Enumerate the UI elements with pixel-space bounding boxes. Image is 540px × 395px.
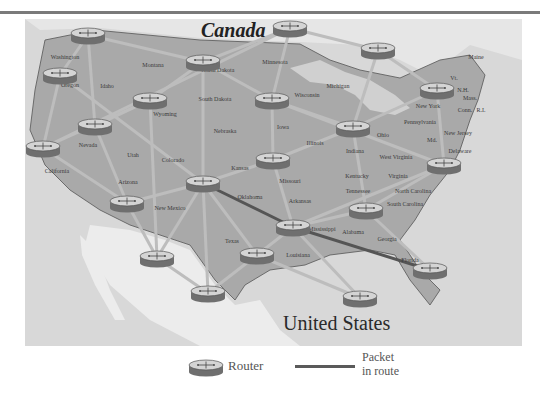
state-label: Nebraska	[214, 128, 237, 134]
state-label: Colorado	[162, 157, 184, 163]
state-label: Arkansas	[289, 198, 312, 204]
state-label: California	[45, 168, 70, 174]
state-label: Ohio	[377, 132, 389, 138]
state-label: Delaware	[449, 148, 472, 154]
state-label: South Carolina	[387, 201, 424, 207]
router-icon	[110, 196, 144, 213]
state-label: Oklahoma	[238, 194, 263, 200]
state-label: N.H.	[457, 87, 469, 93]
canada-label: Canada	[201, 19, 265, 41]
router-icon	[191, 286, 225, 303]
router-icon	[255, 93, 289, 110]
state-label: Idaho	[100, 83, 114, 89]
router-icon	[427, 158, 461, 175]
router-icon	[240, 248, 274, 265]
state-label: Montana	[142, 62, 164, 68]
top-rule	[0, 11, 540, 14]
state-label: Florida	[401, 257, 419, 263]
state-label: Wisconsin	[294, 92, 319, 98]
state-label: Illinois	[306, 140, 324, 146]
state-label: South Dakota	[199, 96, 232, 102]
state-label: Md.	[427, 137, 437, 143]
packet-route-swatch	[295, 365, 355, 368]
state-label: Wyoming	[153, 111, 177, 117]
state-label: R.I.	[477, 107, 487, 113]
router-icon	[133, 93, 167, 110]
network-map: WashingtonOregonIdahoMontanaNorth Dakota…	[25, 19, 522, 346]
legend-route-label-line1: Packet	[362, 350, 399, 364]
router-icon	[186, 176, 220, 193]
router-icon	[187, 357, 225, 377]
state-label: West Virginia	[380, 154, 413, 160]
map-canvas: WashingtonOregonIdahoMontanaNorth Dakota…	[25, 19, 522, 346]
state-label: Minnesota	[262, 59, 288, 65]
state-label: New Mexico	[154, 205, 185, 211]
state-label: Texas	[225, 238, 240, 244]
state-label: Missouri	[279, 178, 301, 184]
router-icon	[256, 153, 290, 170]
router-icon	[78, 119, 112, 136]
state-label: Virginia	[388, 173, 408, 179]
state-label: Louisiana	[286, 252, 310, 258]
router-icon	[273, 21, 307, 38]
state-label: Washington	[51, 54, 80, 60]
router-icon	[43, 68, 77, 85]
state-label: Tennessee	[346, 188, 371, 194]
router-icon	[336, 121, 370, 138]
router-icon	[186, 55, 220, 72]
router-icon	[71, 28, 105, 45]
state-label: Michigan	[327, 83, 350, 89]
legend-route-label: Packet in route	[362, 350, 399, 378]
state-label: Alabama	[342, 229, 364, 235]
state-label: Mississippi	[308, 226, 336, 232]
legend-route-label-line2: in route	[362, 364, 399, 378]
state-label: Kansas	[231, 165, 249, 171]
state-label: New Jersey	[444, 130, 472, 136]
state-label: Mass.	[463, 95, 478, 101]
state-label: Indiana	[346, 148, 364, 154]
router-icon	[361, 43, 395, 60]
router-icon	[343, 291, 377, 308]
state-label: North Carolina	[395, 188, 431, 194]
router-icon	[349, 203, 383, 220]
state-label: Iowa	[277, 124, 289, 130]
state-label: Nevada	[79, 142, 98, 148]
state-label: New York	[416, 103, 440, 109]
legend: Router Packet in route	[0, 352, 540, 392]
router-icon	[26, 141, 60, 158]
router-icon	[140, 251, 174, 268]
state-label: Georgia	[377, 236, 397, 242]
state-label: Kentucky	[345, 173, 368, 179]
state-label: Maine	[468, 54, 484, 60]
state-label: Arizona	[118, 179, 138, 185]
router-icon	[413, 263, 447, 280]
router-icon	[276, 220, 310, 237]
state-label: Utah	[127, 152, 139, 158]
state-label: Vt.	[450, 75, 458, 81]
united-states-label: United States	[283, 312, 390, 334]
legend-router-label: Router	[228, 358, 263, 374]
router-icon	[420, 83, 454, 100]
state-label: Conn.	[458, 107, 473, 113]
state-label: Pennsylvania	[404, 119, 436, 125]
